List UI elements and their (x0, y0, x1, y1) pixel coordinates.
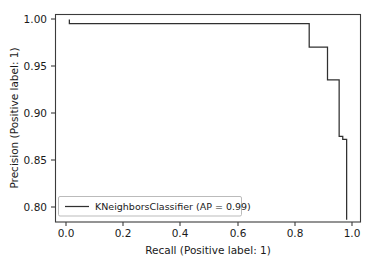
x-tick-label-5: 1.0 (344, 227, 361, 239)
y-tickmarks (51, 19, 55, 207)
y-tick-label-095: 0.95 (24, 60, 47, 72)
chart-canvas: 0.0 0.2 0.4 0.6 0.8 1.0 1.00 0.95 0.90 0… (0, 0, 374, 261)
x-tick-label-1: 0.2 (115, 227, 132, 239)
axes-frame (56, 15, 361, 223)
x-tick-label-3: 0.6 (230, 227, 247, 239)
x-tickmarks (66, 222, 352, 226)
x-tick-label-2: 0.4 (172, 227, 189, 239)
y-tick-label-080: 0.80 (24, 201, 47, 213)
precision-recall-figure: 0.0 0.2 0.4 0.6 0.8 1.0 1.00 0.95 0.90 0… (0, 0, 374, 261)
x-tick-label-4: 0.8 (287, 227, 304, 239)
y-tick-label-090: 0.90 (24, 107, 47, 119)
y-tick-label-085: 0.85 (24, 154, 47, 166)
x-axis-title: Recall (Positive label: 1) (145, 244, 271, 256)
y-tick-label-100: 1.00 (24, 13, 47, 25)
y-axis-title: Precision (Positive label: 1) (8, 47, 20, 188)
legend-entry-label: KNeighborsClassifier (AP = 0.99) (95, 201, 251, 212)
x-tick-label-0: 0.0 (58, 227, 75, 239)
precision-recall-curve (69, 19, 346, 219)
chart-legend: KNeighborsClassifier (AP = 0.99) (59, 197, 251, 217)
